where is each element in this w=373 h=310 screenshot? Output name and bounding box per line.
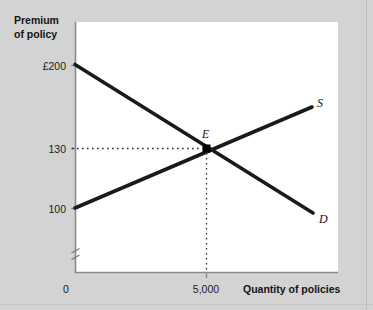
origin-label: 0 — [63, 283, 69, 295]
page-edge-bottom — [0, 304, 373, 305]
x-tick-label-5000: 5,000 — [193, 283, 219, 295]
y-tick-label-100: 100 — [48, 203, 66, 215]
page-edge-right — [366, 0, 367, 310]
y-axis-title-line2: of policy — [14, 28, 57, 40]
equilibrium-point-marker — [203, 145, 211, 153]
figure-container: Premium of policy £200 130 100 0 5,000 Q… — [0, 0, 373, 310]
y-axis-title-line1: Premium — [14, 14, 59, 26]
x-axis-title: Quantity of policies — [243, 283, 341, 295]
demand-curve-label: D — [318, 212, 328, 226]
supply-demand-chart: Premium of policy £200 130 100 0 5,000 Q… — [0, 0, 373, 310]
y-tick-label-200: £200 — [43, 60, 67, 72]
equilibrium-label: E — [201, 128, 209, 140]
supply-curve-label: S — [317, 96, 323, 110]
y-tick-label-130: 130 — [48, 143, 66, 155]
